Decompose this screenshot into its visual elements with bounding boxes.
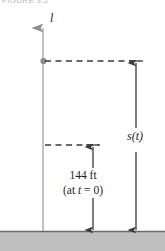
height-label: 144 ft (at t = 0) bbox=[63, 170, 103, 196]
figure-drawing bbox=[0, 0, 165, 251]
height-condition-suffix: = 0) bbox=[81, 184, 103, 196]
axis-label: l bbox=[50, 12, 53, 24]
figure-container: FIGURE 3.2 bbox=[0, 0, 165, 251]
height-condition-prefix: (at bbox=[63, 184, 78, 196]
height-condition: (at t = 0) bbox=[63, 185, 103, 197]
ground-fill bbox=[0, 231, 165, 251]
height-value: 144 ft bbox=[69, 169, 96, 181]
distance-label: s(t) bbox=[127, 130, 143, 142]
